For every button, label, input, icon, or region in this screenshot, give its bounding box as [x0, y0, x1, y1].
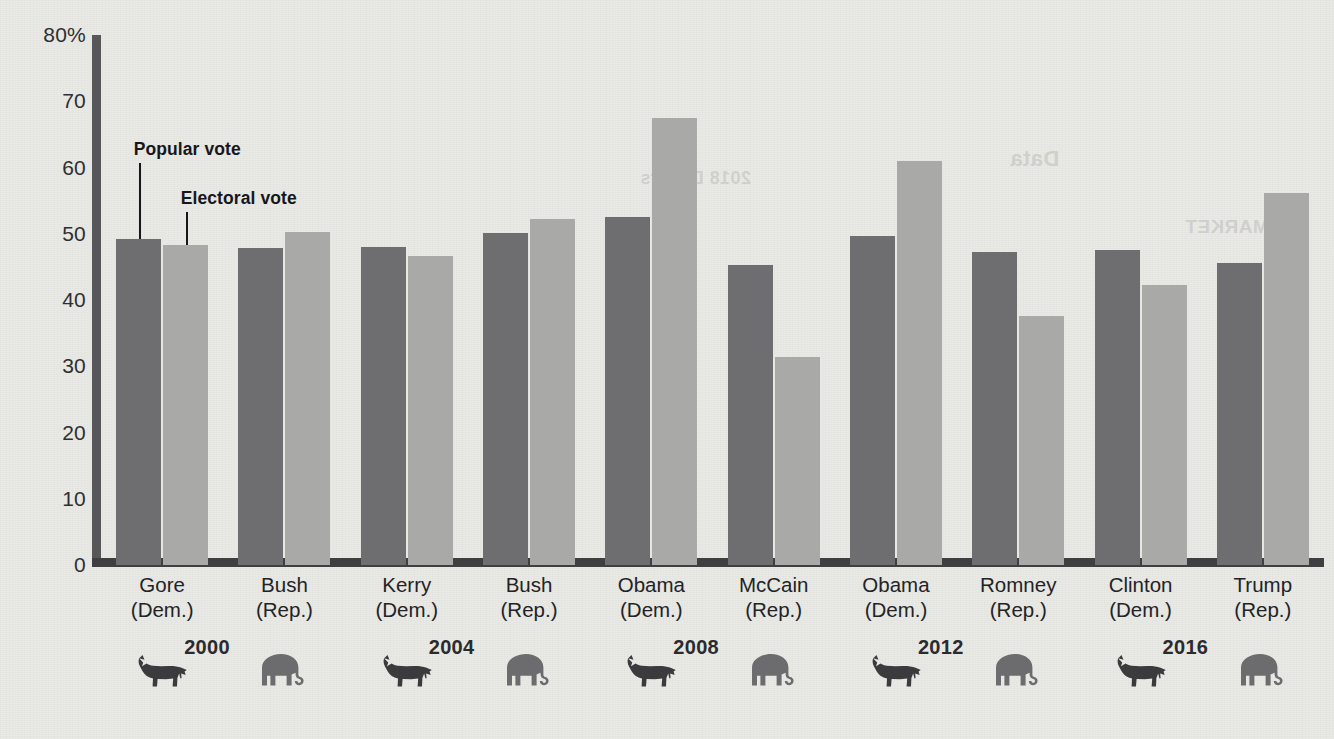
bar-electoral-vote[interactable]: [1142, 285, 1187, 565]
candidate-label: Trump(Rep.): [1202, 572, 1324, 622]
elephant-icon: [747, 650, 801, 690]
candidate-label: Kerry(Dem.): [346, 572, 468, 622]
y-axis-tick-60: 60: [12, 156, 86, 180]
candidate-label: Obama(Dem.): [590, 572, 712, 622]
candidate-label: Gore(Dem.): [101, 572, 223, 622]
donkey-icon: [135, 650, 189, 690]
bar-group: [1217, 35, 1309, 565]
candidate-party: (Rep.): [468, 597, 590, 622]
elephant-icon: [1236, 650, 1290, 690]
bar-electoral-vote[interactable]: [163, 245, 208, 565]
candidate-name: Gore: [101, 572, 223, 597]
candidate-party: (Rep.): [223, 597, 345, 622]
y-axis-line: [92, 35, 101, 567]
bar-electoral-vote[interactable]: [530, 219, 575, 565]
candidate-axis-labels: Gore(Dem.)Bush(Rep.)Kerry(Dem.)Bush(Rep.…: [101, 572, 1324, 632]
bar-group: [605, 35, 697, 565]
bar-popular-vote[interactable]: [1095, 250, 1140, 565]
y-axis-tick-40: 40: [12, 288, 86, 312]
bar-group: [483, 35, 575, 565]
electoral-vote-callout-leader-line: [186, 212, 188, 245]
bar-popular-vote[interactable]: [483, 233, 528, 565]
bar-group: [728, 35, 820, 565]
candidate-party: (Dem.): [1079, 597, 1201, 622]
candidate-party: (Dem.): [835, 597, 957, 622]
candidate-label: Romney(Rep.): [957, 572, 1079, 622]
bar-group: [238, 35, 330, 565]
bar-group: [361, 35, 453, 565]
bar-electoral-vote[interactable]: [408, 256, 453, 565]
bar-popular-vote[interactable]: [605, 217, 650, 565]
popular-vote-callout-label: Popular vote: [134, 139, 241, 160]
candidate-label: Bush(Rep.): [468, 572, 590, 622]
bar-popular-vote[interactable]: [1217, 263, 1262, 565]
bar-electoral-vote[interactable]: [1264, 193, 1309, 565]
bar-group: [116, 35, 208, 565]
candidate-name: Bush: [468, 572, 590, 597]
y-axis-tick-30: 30: [12, 354, 86, 378]
year-and-party-icon-row: 20002004200820122016: [101, 636, 1324, 716]
bar-electoral-vote[interactable]: [652, 118, 697, 565]
candidate-name: Trump: [1202, 572, 1324, 597]
bar-group: [972, 35, 1064, 565]
candidate-label: Clinton(Dem.): [1079, 572, 1201, 622]
candidate-name: Obama: [835, 572, 957, 597]
candidate-party: (Dem.): [101, 597, 223, 622]
year-label: 2012: [918, 636, 964, 659]
elephant-icon: [257, 650, 311, 690]
y-axis-tick-10: 10: [12, 487, 86, 511]
candidate-name: Obama: [590, 572, 712, 597]
electoral-vote-callout-label: Electoral vote: [181, 188, 297, 209]
year-label: 2016: [1163, 636, 1209, 659]
bar-popular-vote[interactable]: [972, 252, 1017, 565]
candidate-party: (Dem.): [590, 597, 712, 622]
candidate-name: Bush: [223, 572, 345, 597]
donkey-icon: [380, 650, 434, 690]
donkey-icon: [1114, 650, 1168, 690]
elephant-icon: [502, 650, 556, 690]
candidate-label: McCain(Rep.): [713, 572, 835, 622]
candidate-name: Romney: [957, 572, 1079, 597]
candidate-name: McCain: [713, 572, 835, 597]
y-axis-tick-labels: 80%706050403020100: [0, 0, 86, 739]
plot-area: [101, 35, 1324, 565]
bar-popular-vote[interactable]: [116, 239, 161, 565]
candidate-party: (Dem.): [346, 597, 468, 622]
bar-electoral-vote[interactable]: [897, 161, 942, 565]
candidate-party: (Rep.): [713, 597, 835, 622]
bar-electoral-vote[interactable]: [285, 232, 330, 565]
popular-vote-callout-leader-line: [139, 163, 141, 239]
y-axis-tick-80: 80%: [12, 23, 86, 47]
year-label: 2008: [673, 636, 719, 659]
bar-electoral-vote[interactable]: [1019, 316, 1064, 565]
bar-group: [1095, 35, 1187, 565]
bar-popular-vote[interactable]: [361, 247, 406, 565]
donkey-icon: [624, 650, 678, 690]
election-vote-share-chart: 80%706050403020100 Popular vote Electora…: [0, 0, 1334, 739]
y-axis-tick-0: 0: [12, 553, 86, 577]
y-axis-tick-50: 50: [12, 222, 86, 246]
bar-popular-vote[interactable]: [238, 248, 283, 565]
y-axis-tick-20: 20: [12, 421, 86, 445]
bar-group: [850, 35, 942, 565]
bar-popular-vote[interactable]: [728, 265, 773, 565]
candidate-party: (Rep.): [1202, 597, 1324, 622]
candidate-label: Bush(Rep.): [223, 572, 345, 622]
bar-electoral-vote[interactable]: [775, 357, 820, 565]
donkey-icon: [869, 650, 923, 690]
elephant-icon: [991, 650, 1045, 690]
candidate-name: Kerry: [346, 572, 468, 597]
year-label: 2004: [429, 636, 475, 659]
candidate-name: Clinton: [1079, 572, 1201, 597]
y-axis-tick-70: 70: [12, 89, 86, 113]
bar-popular-vote[interactable]: [850, 236, 895, 565]
candidate-party: (Rep.): [957, 597, 1079, 622]
candidate-label: Obama(Dem.): [835, 572, 957, 622]
year-label: 2000: [184, 636, 230, 659]
